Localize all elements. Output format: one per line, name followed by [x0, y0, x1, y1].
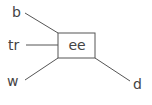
node-w-label: w [7, 73, 18, 89]
edge-w-ee [25, 58, 58, 80]
edge-ee-d [95, 58, 130, 81]
diagram-canvas: ee b tr w d [0, 0, 152, 105]
node-b-label: b [12, 4, 21, 20]
node-d-label: d [133, 76, 142, 92]
edge-b-ee [25, 13, 58, 33]
node-tr-label: tr [8, 37, 19, 53]
node-ee-label: ee [68, 37, 85, 53]
